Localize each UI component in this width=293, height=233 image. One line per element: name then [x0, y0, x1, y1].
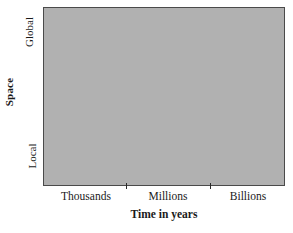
x-axis-tick-mark-2 [210, 183, 211, 189]
y-axis-tick-label-local: Local [26, 129, 38, 183]
chart-figure: Space Global Local Thousands Millions Bi… [0, 0, 293, 233]
x-axis-tick-label-billions: Billions [210, 190, 286, 202]
x-axis-tick-label-thousands: Thousands [46, 190, 126, 202]
y-axis-tick-label-global: Global [23, 5, 35, 59]
y-axis-title: Space [3, 62, 15, 122]
x-axis-title: Time in years [43, 208, 285, 220]
plot-area [43, 7, 285, 186]
x-axis-tick-label-millions: Millions [128, 190, 208, 202]
x-axis-tick-mark-1 [126, 183, 127, 189]
